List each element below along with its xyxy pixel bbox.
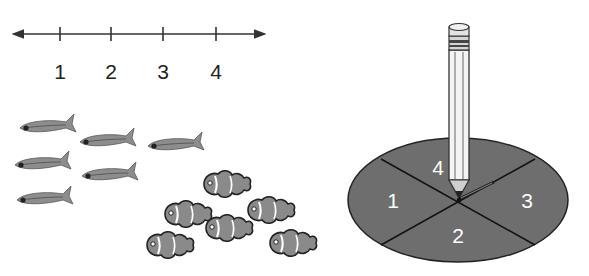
clownfish-icon — [204, 171, 251, 198]
tetra-fish-icon — [80, 128, 136, 146]
number-label-3: 3 — [157, 60, 169, 83]
tetra-fish-icon — [17, 186, 73, 204]
illustration-canvas: 1 2 3 4 4 1 3 2 — [0, 0, 589, 276]
section-label-1: 1 — [387, 189, 399, 212]
clownfish-icon — [248, 197, 295, 224]
tetra-fish-group — [15, 114, 204, 204]
clownfish-icon — [147, 232, 194, 259]
number-label-1: 1 — [54, 60, 66, 83]
tetra-fish-icon — [20, 114, 76, 132]
number-label-2: 2 — [105, 60, 117, 83]
tetra-fish-icon — [15, 151, 71, 169]
spinner: 4 1 3 2 — [348, 24, 568, 263]
section-label-3: 3 — [521, 189, 533, 212]
spinner-center-pin — [457, 198, 461, 202]
clownfish-group — [147, 171, 317, 259]
section-label-2: 2 — [452, 224, 464, 247]
tetra-fish-icon — [82, 162, 138, 180]
clownfish-icon — [270, 230, 317, 257]
pencil-icon — [449, 24, 469, 200]
tetra-fish-icon — [148, 132, 204, 150]
clownfish-icon — [165, 201, 212, 228]
section-label-4: 4 — [432, 156, 444, 179]
clownfish-icon — [206, 215, 253, 242]
number-label-4: 4 — [210, 60, 222, 83]
number-line: 1 2 3 4 — [18, 27, 260, 83]
